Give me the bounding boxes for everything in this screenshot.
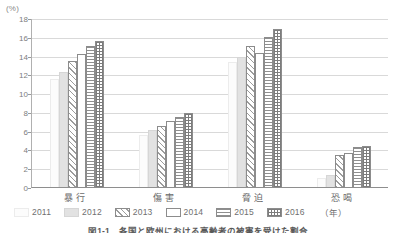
legend-item-2011[interactable]: 2011 bbox=[14, 207, 51, 217]
bar-暴行-2012 bbox=[59, 72, 68, 187]
bar-傷害-2015 bbox=[175, 117, 184, 187]
bar-group-傷害 bbox=[121, 19, 210, 187]
bar-脅迫-2011 bbox=[228, 62, 237, 187]
y-tick-label: 14 bbox=[6, 52, 28, 61]
bar-恐喝-2011 bbox=[317, 178, 326, 187]
legend-item-2014[interactable]: 2014 bbox=[166, 207, 204, 217]
legend-label: 2011 bbox=[32, 207, 51, 217]
plot-area bbox=[31, 19, 388, 188]
bar-恐喝-2016 bbox=[362, 146, 371, 187]
legend-label: 2016 bbox=[285, 207, 305, 217]
y-tick-mark bbox=[28, 150, 31, 151]
figure-caption: 図1-1 各国と欧州における高齢者の被害を受けた割合 bbox=[0, 224, 396, 233]
bar-脅迫-2012 bbox=[237, 57, 246, 188]
y-tick-label: 6 bbox=[6, 127, 28, 136]
bar-group-暴行 bbox=[32, 19, 121, 187]
y-tick-label: 12 bbox=[6, 71, 28, 80]
bar-脅迫-2014 bbox=[255, 53, 264, 187]
y-tick-label: 2 bbox=[6, 165, 28, 174]
y-tick-label: 4 bbox=[6, 146, 28, 155]
legend-swatch-2013-icon bbox=[115, 208, 130, 217]
bar-傷害-2011 bbox=[139, 135, 148, 187]
legend-swatch-2015-icon bbox=[216, 208, 231, 217]
category-label-暴行: 暴行 bbox=[31, 191, 120, 204]
y-tick-mark bbox=[28, 57, 31, 58]
y-tick-mark bbox=[28, 169, 31, 170]
legend-item-2012[interactable]: 2012 bbox=[64, 207, 102, 217]
legend-swatch-2011-icon bbox=[14, 208, 29, 217]
legend-label: 2012 bbox=[82, 207, 102, 217]
legend-item-2015[interactable]: 2015 bbox=[216, 207, 254, 217]
category-label-傷害: 傷害 bbox=[120, 191, 209, 204]
y-tick-label: 8 bbox=[6, 108, 28, 117]
chart-figure: (%) 024681012141618 暴行傷害脅迫恐喝 20112012201… bbox=[0, 0, 396, 233]
y-tick-label: 10 bbox=[6, 90, 28, 99]
legend-item-2013[interactable]: 2013 bbox=[115, 207, 153, 217]
legend-swatch-2014-icon bbox=[166, 208, 181, 217]
bar-恐喝-2014 bbox=[344, 153, 353, 187]
bar-恐喝-2013 bbox=[335, 155, 344, 187]
bar-脅迫-2016 bbox=[273, 29, 282, 187]
bar-脅迫-2015 bbox=[264, 37, 273, 187]
category-label-脅迫: 脅迫 bbox=[210, 191, 299, 204]
bar-暴行-2015 bbox=[86, 46, 95, 187]
bar-脅迫-2013 bbox=[246, 46, 255, 187]
y-tick-label: 18 bbox=[6, 15, 28, 24]
bar-恐喝-2015 bbox=[353, 147, 362, 187]
bar-傷害-2012 bbox=[148, 130, 157, 187]
y-tick-mark bbox=[28, 38, 31, 39]
chart-legend: 201120122013201420152016（年） bbox=[14, 205, 384, 219]
legend-swatch-2016-icon bbox=[267, 208, 282, 217]
y-tick-mark bbox=[28, 94, 31, 95]
bar-傷害-2013 bbox=[157, 126, 166, 187]
y-tick-mark bbox=[28, 113, 31, 114]
bar-group-恐喝 bbox=[300, 19, 389, 187]
y-axis-unit-label: (%) bbox=[6, 4, 19, 13]
legend-item-2016[interactable]: 2016 bbox=[267, 207, 305, 217]
y-tick-mark bbox=[28, 19, 31, 20]
bar-暴行-2014 bbox=[77, 54, 86, 187]
bar-暴行-2013 bbox=[68, 61, 77, 187]
bar-恐喝-2012 bbox=[326, 175, 335, 187]
y-tick-mark bbox=[28, 132, 31, 133]
y-tick-label: 0 bbox=[6, 184, 28, 193]
legend-year-note: （年） bbox=[320, 206, 347, 218]
y-tick-mark bbox=[28, 188, 31, 189]
category-label-恐喝: 恐喝 bbox=[299, 191, 388, 204]
bar-group-脅迫 bbox=[211, 19, 300, 187]
bar-暴行-2016 bbox=[95, 41, 104, 187]
legend-label: 2015 bbox=[234, 207, 254, 217]
bar-傷害-2014 bbox=[166, 121, 175, 187]
legend-swatch-2012-icon bbox=[64, 208, 79, 217]
y-tick-label: 16 bbox=[6, 33, 28, 42]
y-tick-mark bbox=[28, 75, 31, 76]
bar-傷害-2016 bbox=[184, 113, 193, 187]
legend-label: 2013 bbox=[133, 207, 153, 217]
bar-groups bbox=[32, 19, 388, 187]
legend-label: 2014 bbox=[184, 207, 204, 217]
bar-暴行-2011 bbox=[50, 79, 59, 187]
